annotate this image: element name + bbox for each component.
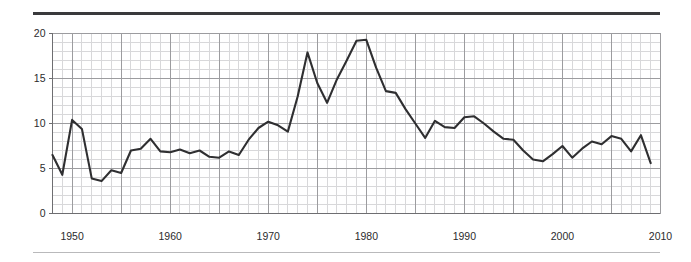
line-chart: 05101520 1950196019701980199020002010	[0, 0, 691, 262]
x-tick-label: 2010	[649, 230, 673, 242]
x-tick-label: 1970	[257, 230, 281, 242]
y-axis-tick-labels: 05101520	[34, 27, 46, 219]
chart-svg: 05101520 1950196019701980199020002010	[0, 0, 691, 262]
y-tick-label: 5	[40, 162, 46, 174]
x-tick-label: 2000	[551, 230, 575, 242]
y-tick-label: 15	[34, 72, 46, 84]
x-axis-tick-labels: 1950196019701980199020002010	[60, 230, 672, 242]
x-tick-label: 1950	[60, 230, 84, 242]
x-tick-label: 1960	[158, 230, 182, 242]
y-tick-label: 0	[40, 207, 46, 219]
x-tick-label: 1980	[355, 230, 379, 242]
y-tick-label: 20	[34, 27, 46, 39]
figure-container: 05101520 1950196019701980199020002010	[0, 0, 691, 262]
x-tick-label: 1990	[453, 230, 477, 242]
y-tick-label: 10	[34, 117, 46, 129]
